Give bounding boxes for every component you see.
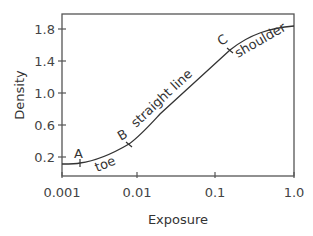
y-tick-label: 1.4 xyxy=(34,54,55,69)
x-tick-label: 1.0 xyxy=(284,185,305,200)
y-tick-label: 1.0 xyxy=(34,86,55,101)
y-tick-label: 0.6 xyxy=(34,118,55,133)
point-b-label: B xyxy=(115,126,130,143)
characteristic-curve-chart: 1.8 1.4 1.0 0.6 0.2 0.001 0.01 0.1 1.0 E… xyxy=(0,0,313,236)
region-shoulder-label: shoulder xyxy=(232,19,289,61)
x-axis-title: Exposure xyxy=(148,212,208,227)
y-axis-title: Density xyxy=(12,70,27,120)
x-tick-label: 0.01 xyxy=(123,185,152,200)
region-toe-label: toe xyxy=(93,153,118,175)
x-tick-label: 0.001 xyxy=(43,185,80,200)
y-tick-label: 1.8 xyxy=(34,22,55,37)
point-c-label: C xyxy=(214,31,230,48)
x-tick-label: 0.1 xyxy=(205,185,226,200)
point-a-label: A xyxy=(74,146,83,161)
region-straight-line-label: straight line xyxy=(128,66,195,130)
y-tick-label: 0.2 xyxy=(34,150,55,165)
